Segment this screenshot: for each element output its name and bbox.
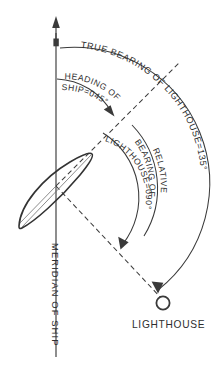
north-arrow-icon xyxy=(52,16,60,46)
bearing-diagram: TRUE BEARING OF LIGHTHOUSE=135° HEADING … xyxy=(0,0,223,367)
meridian-label: MERIDIAN OF SHIP xyxy=(50,243,61,347)
lighthouse-label: LIGHTHOUSE xyxy=(132,319,205,330)
lighthouse-circle-icon xyxy=(156,296,169,309)
true-bearing-arc xyxy=(60,47,210,293)
diagram-canvas: TRUE BEARING OF LIGHTHOUSE=135° HEADING … xyxy=(0,0,223,367)
